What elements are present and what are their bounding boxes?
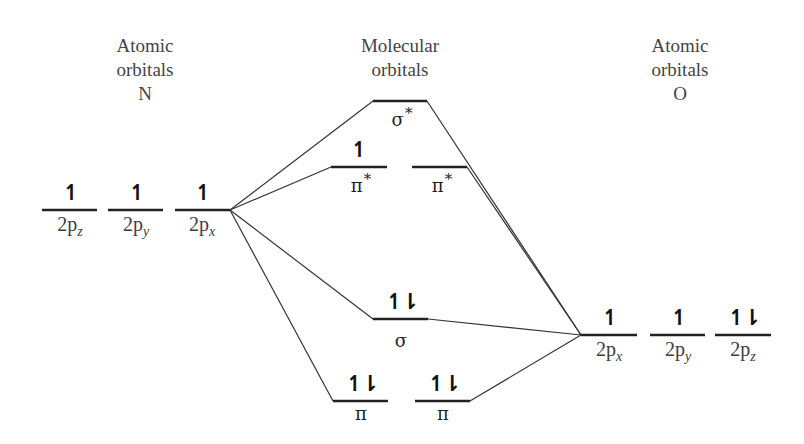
orbital-subscript: y bbox=[143, 224, 149, 239]
label-pi-star-1: π* bbox=[351, 170, 371, 196]
orbital-name: 2p bbox=[596, 338, 616, 360]
connector-n-pi bbox=[230, 210, 333, 401]
connector-n-pi-star bbox=[230, 167, 331, 210]
electrons-pi-1: ↿⇂ bbox=[346, 371, 377, 396]
orbital-subscript: x bbox=[616, 349, 622, 364]
electrons-pi-star-1: ↿ bbox=[350, 137, 365, 162]
label-n-2pz: 2pz bbox=[57, 213, 82, 240]
energy-levels bbox=[42, 101, 771, 401]
connector-o-sigma bbox=[428, 319, 581, 335]
orbital-name: 2p bbox=[123, 213, 143, 235]
connector-n-sigma bbox=[230, 210, 373, 319]
electrons-o-2pz: ↿⇂ bbox=[728, 305, 759, 330]
label-sigma-star: σ* bbox=[392, 104, 413, 130]
label-pi-1: π bbox=[355, 403, 367, 424]
orbital-subscript: y bbox=[685, 349, 691, 364]
orbital-subscript: x bbox=[209, 224, 215, 239]
orbital-subscript: z bbox=[77, 224, 82, 239]
label-n-2px: 2px bbox=[189, 213, 215, 240]
label-pi-2: π bbox=[437, 403, 449, 424]
correlation-lines bbox=[230, 101, 581, 401]
label-o-2px: 2px bbox=[596, 338, 622, 365]
mo-symbol: π bbox=[437, 403, 449, 424]
label-o-2py: 2py bbox=[665, 338, 691, 365]
label-sigma: σ bbox=[395, 330, 407, 351]
electrons-n-2pz: ↿ bbox=[62, 180, 77, 205]
electrons-sigma: ↿⇂ bbox=[386, 289, 417, 314]
mo-symbol: π bbox=[351, 175, 363, 196]
electrons-o-2py: ↿ bbox=[670, 305, 685, 330]
connector-o-pi bbox=[470, 335, 581, 401]
electrons-n-2py: ↿ bbox=[128, 180, 143, 205]
antibonding-star: * bbox=[364, 170, 372, 188]
electrons-pi-2: ↿⇂ bbox=[428, 371, 459, 396]
antibonding-star: * bbox=[445, 170, 453, 188]
orbital-name: 2p bbox=[665, 338, 685, 360]
orbital-diagram-lines bbox=[0, 0, 804, 444]
orbital-name: 2p bbox=[189, 213, 209, 235]
connector-o-pi-star bbox=[467, 167, 581, 335]
label-o-2pz: 2pz bbox=[730, 338, 755, 365]
mo-symbol: σ bbox=[395, 330, 407, 351]
label-pi-star-2: π* bbox=[432, 170, 452, 196]
antibonding-star: * bbox=[405, 104, 413, 122]
orbital-name: 2p bbox=[57, 213, 77, 235]
electrons-n-2px: ↿ bbox=[194, 180, 209, 205]
mo-symbol: σ bbox=[392, 109, 404, 130]
label-n-2py: 2py bbox=[123, 213, 149, 240]
mo-symbol: π bbox=[355, 403, 367, 424]
orbital-subscript: z bbox=[750, 349, 755, 364]
orbital-name: 2p bbox=[730, 338, 750, 360]
electrons-o-2px: ↿ bbox=[601, 305, 616, 330]
mo-symbol: π bbox=[432, 175, 444, 196]
